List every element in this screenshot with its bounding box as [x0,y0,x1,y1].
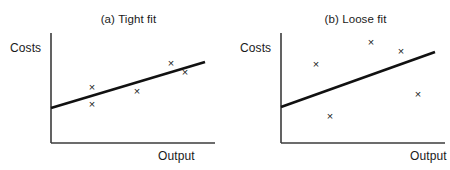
data-point-group-a: ××××× [89,57,188,110]
data-point-marker: × [89,98,95,110]
data-point-marker: × [398,45,404,57]
panel-loose-fit: (b) Loose fit Costs Output ××××× [225,0,450,170]
data-point-marker: × [168,57,174,69]
data-point-marker: × [134,85,140,97]
data-point-marker: × [182,66,188,78]
figure-two-scatter-panels: (a) Tight fit Costs Output ××××× (b) Loo… [0,0,450,170]
plot-area-a: ××××× [0,0,225,170]
data-point-marker: × [327,110,333,122]
data-point-marker: × [313,58,319,70]
data-point-marker: × [89,81,95,93]
plot-area-b: ××××× [225,0,450,170]
data-point-marker: × [368,36,374,48]
panel-tight-fit: (a) Tight fit Costs Output ××××× [0,0,225,170]
trend-line-b [281,52,435,107]
data-point-group-b: ××××× [313,36,421,122]
data-point-marker: × [415,88,421,100]
